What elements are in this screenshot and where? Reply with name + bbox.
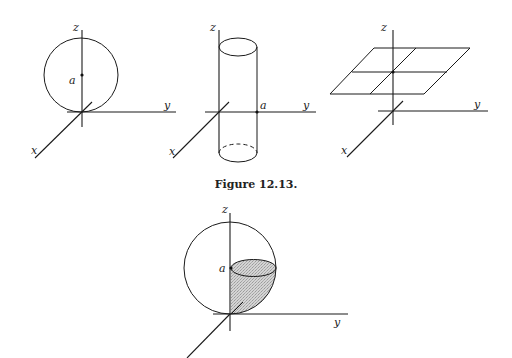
- cylinder-bottom-back: [219, 144, 257, 153]
- a-label: a: [219, 262, 226, 275]
- z-label: z: [221, 203, 228, 216]
- center-point: [80, 73, 83, 76]
- cylinder-top: [219, 38, 257, 56]
- figure-cylinder: z a y x: [169, 21, 316, 162]
- a-label: a: [260, 99, 267, 112]
- point-a: [255, 110, 258, 113]
- x-axis: [35, 102, 92, 158]
- x-label: x: [31, 144, 38, 157]
- y-label: y: [333, 316, 341, 329]
- x-label: x: [169, 145, 176, 158]
- z-label: z: [380, 21, 387, 34]
- y-label: y: [473, 98, 481, 111]
- y-label: y: [302, 99, 310, 112]
- figure-sphere: z a y x: [31, 21, 176, 158]
- shaded-region: [231, 260, 276, 315]
- z-label: z: [72, 21, 79, 34]
- point-a: [229, 266, 232, 269]
- plane-outline: [330, 48, 470, 94]
- figure-sphere-shaded: z a y: [184, 203, 348, 358]
- z-label: z: [209, 21, 216, 34]
- x-label: x: [341, 144, 348, 157]
- figure-plane: z y x: [330, 21, 488, 157]
- y-label: y: [163, 99, 171, 112]
- figure-caption: Figure 12.13.: [215, 178, 298, 191]
- x-axis: [187, 314, 230, 358]
- figure-canvas: z a y x z a y x z y x Figure 12.13.: [0, 0, 512, 358]
- a-label: a: [69, 74, 76, 87]
- x-axis: [347, 101, 403, 157]
- plane-center-point: [391, 70, 394, 73]
- cylinder-bottom-front: [219, 153, 257, 162]
